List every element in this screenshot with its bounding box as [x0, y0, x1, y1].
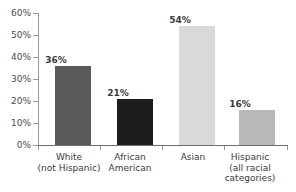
category-line: categories) — [205, 173, 295, 184]
y-tick-label-60: 60% — [0, 9, 31, 18]
y-tick-label-50: 50% — [0, 31, 31, 40]
x-tick-4 — [287, 146, 288, 150]
plot-area — [38, 13, 288, 145]
category-label-hispanic: Hispanic (all racial categories) — [205, 152, 295, 184]
bar-value-african-american: 21% — [97, 88, 139, 98]
bar-chart: 0% 10% 20% 30% 40% 50% 60% 36% 21% 54% 1… — [0, 0, 296, 192]
bar-value-asian: 54% — [159, 15, 201, 25]
bar-asian[interactable] — [179, 26, 215, 145]
bar-african-american[interactable] — [117, 99, 153, 145]
x-tick-2 — [162, 146, 163, 150]
y-tick-label-0: 0% — [0, 141, 31, 150]
bar-value-hispanic: 16% — [219, 99, 261, 109]
x-tick-0 — [38, 146, 39, 150]
y-tick-label-20: 20% — [0, 97, 31, 106]
x-tick-1 — [100, 146, 101, 150]
bar-white-not-hispanic[interactable] — [55, 66, 91, 145]
y-tick-label-10: 10% — [0, 119, 31, 128]
y-tick-label-30: 30% — [0, 75, 31, 84]
category-line: (all racial — [205, 163, 295, 174]
bar-value-white-not-hispanic: 36% — [35, 55, 77, 65]
category-line: Hispanic — [205, 152, 295, 163]
bar-hispanic-all-racial-categories[interactable] — [239, 110, 275, 145]
x-axis-line — [38, 145, 288, 146]
x-tick-3 — [224, 146, 225, 150]
category-line: American — [80, 163, 180, 174]
y-tick-label-40: 40% — [0, 53, 31, 62]
